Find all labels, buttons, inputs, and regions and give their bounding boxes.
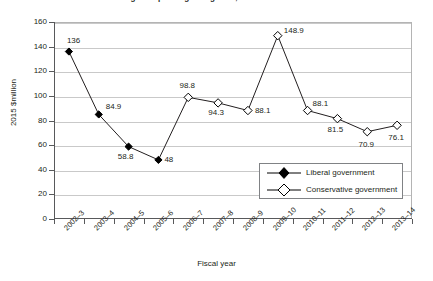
legend-label-liberal-government: Liberal government <box>306 168 374 178</box>
gridline <box>55 23 411 24</box>
y-axis-tick <box>49 145 54 146</box>
data-point-label: 88.1 <box>313 100 329 108</box>
hollow-diamond-icon <box>266 181 302 199</box>
x-axis-tick <box>54 219 55 224</box>
y-axis-line <box>54 22 55 219</box>
y-axis-tick <box>49 47 54 48</box>
x-axis-tick <box>323 219 324 224</box>
y-axis-tick <box>49 121 54 122</box>
x-axis-tick <box>233 219 234 224</box>
x-axis-tick <box>114 219 115 224</box>
y-axis-tick-label: 160 <box>3 18 47 26</box>
legal-aid-spending-line-chart: Figure: Spending on legal aid, 2002–3 to… <box>0 0 433 281</box>
y-axis-tick-label: 40 <box>3 166 47 174</box>
x-axis-tick <box>84 219 85 224</box>
gridline <box>55 97 411 98</box>
data-point-label: 94.3 <box>208 109 224 117</box>
chart-title: Figure: Spending on legal aid, 2002–3 to… <box>0 0 433 2</box>
data-point-label: 148.9 <box>284 27 304 35</box>
x-axis-tick <box>293 219 294 224</box>
y-axis-tick-label: 20 <box>3 190 47 198</box>
y-axis-tick <box>49 170 54 171</box>
y-axis-tick <box>49 22 54 23</box>
y-axis-tick <box>49 71 54 72</box>
y-axis-tick <box>49 194 54 195</box>
data-point-label: 81.5 <box>328 126 344 134</box>
x-axis-tick <box>173 219 174 224</box>
x-axis-tick <box>263 219 264 224</box>
filled-diamond-icon <box>266 164 302 182</box>
y-axis-tick-label: 0 <box>3 215 47 223</box>
gridline <box>55 122 411 123</box>
legend-label-conservative-government: Conservative government <box>306 185 397 195</box>
y-axis-title: 2015 $million <box>9 58 18 148</box>
data-point-label: 88.1 <box>255 107 271 115</box>
data-point-label: 58.8 <box>118 153 134 161</box>
gridline <box>55 48 411 49</box>
legend: Liberal government Conservative governme… <box>259 163 403 199</box>
x-axis-tick <box>144 219 145 224</box>
x-axis-tick <box>203 219 204 224</box>
x-axis-tick <box>412 219 413 224</box>
data-point-label: 48 <box>164 156 173 164</box>
data-point-label: 98.8 <box>179 82 195 90</box>
data-point-label: 84.9 <box>106 103 122 111</box>
data-point-label: 76.1 <box>388 134 404 142</box>
y-axis-tick-label: 140 <box>3 43 47 51</box>
x-axis-title: Fiscal year <box>0 259 433 268</box>
y-axis-tick <box>49 96 54 97</box>
x-axis-tick <box>382 219 383 224</box>
data-point-label: 70.9 <box>358 141 374 149</box>
legend-item-conservative-government: Conservative government <box>260 181 402 199</box>
gridline <box>55 72 411 73</box>
x-axis-tick <box>352 219 353 224</box>
legend-item-liberal-government: Liberal government <box>260 164 402 182</box>
data-point-label: 136 <box>67 37 80 45</box>
